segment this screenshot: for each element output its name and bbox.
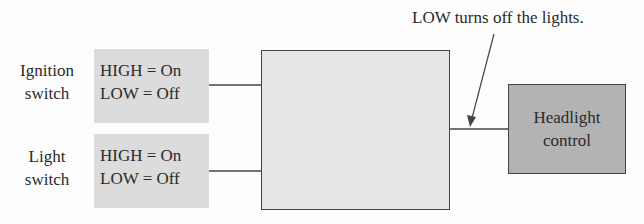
light-signal-box: HIGH = On LOW = Off	[94, 134, 209, 208]
light-switch-label: Light switch	[0, 145, 94, 191]
ignition-signal-box: HIGH = On LOW = Off	[94, 49, 209, 123]
annotation-text: LOW turns off the lights.	[412, 8, 584, 28]
ignition-switch-label: Ignition switch	[0, 59, 94, 105]
logic-block	[261, 50, 450, 210]
arrow-head-icon	[467, 115, 476, 127]
annotation-arrow	[472, 34, 494, 118]
headlight-control-box: Headlight control	[508, 84, 626, 174]
